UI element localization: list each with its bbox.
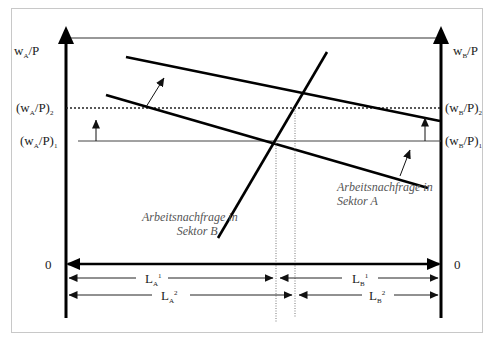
left-origin-label: 0: [45, 258, 52, 271]
left-wage-level-2-label: (wA/P)2: [16, 101, 53, 117]
label-pointer-arrow-sector-a: [400, 150, 410, 176]
right-axis-arrowhead-icon: [433, 26, 449, 44]
sector-a-demand-label: Arbeitsnachfrage inSektor A: [337, 180, 433, 208]
right-wage-level-2-label: (wB/P)2: [445, 101, 482, 117]
right-axis-label: wB/P: [453, 44, 478, 60]
left-axis-label: wA/P: [14, 44, 39, 60]
lb1-label: LB1: [352, 272, 368, 288]
total-labor-left-arrowhead-icon: [66, 258, 80, 270]
left-axis-arrowhead-icon: [58, 26, 74, 44]
sector-a-demand-shifted: [126, 57, 440, 121]
left-wage-level-1-label: (wA/P)1: [20, 134, 57, 150]
la2-label: LA2: [161, 289, 178, 305]
right-origin-label: 0: [454, 258, 461, 271]
labor-market-diagram: [0, 0, 494, 343]
lb2-label: LB2: [369, 289, 385, 305]
total-labor-right-arrowhead-icon: [427, 258, 441, 270]
shift-arrow-sector-a: [146, 78, 164, 107]
right-wage-level-1-label: (wB/P)1: [445, 134, 482, 150]
la1-label: LA1: [145, 272, 162, 288]
sector-b-demand-label: Arbeitsnachfrage inSektor B: [142, 210, 238, 238]
